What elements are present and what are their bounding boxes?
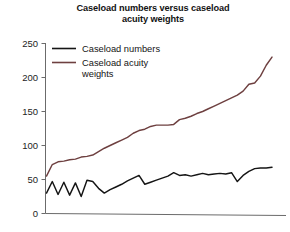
y-tick-label-250: 250 xyxy=(22,38,38,49)
y-tick-label-100: 100 xyxy=(22,140,38,151)
series-line-caseload-numbers xyxy=(47,167,273,196)
y-tick-label-50: 50 xyxy=(27,174,38,185)
x-axis-line xyxy=(46,214,287,216)
chart-figure: Caseload numbers versus caseload acuity … xyxy=(0,0,290,232)
series-line-caseload-acuity-weights xyxy=(47,57,273,176)
y-tick-label-200: 200 xyxy=(22,72,38,83)
y-tick-label-150: 150 xyxy=(22,106,38,117)
chart-legend: Caseload numbers Caseload acuity weights xyxy=(52,44,160,79)
y-tick-label-0: 0 xyxy=(33,208,38,219)
legend-label-caseload-acuity-weights-line2: weights xyxy=(81,69,114,79)
y-axis-ticks xyxy=(42,44,46,214)
legend-label-caseload-numbers: Caseload numbers xyxy=(82,44,160,54)
legend-label-caseload-acuity-weights: Caseload acuity xyxy=(82,58,149,68)
chart-plot-area: 250 200 150 100 50 0 Caseload numbers Ca… xyxy=(0,0,290,232)
